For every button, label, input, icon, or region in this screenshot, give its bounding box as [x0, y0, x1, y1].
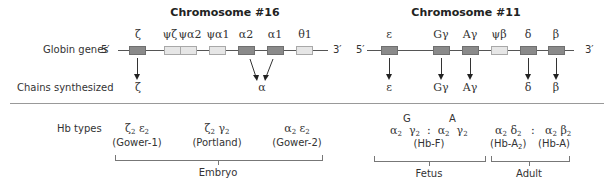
arrow-delta-shaft: [528, 58, 529, 75]
chain-alpha: α: [258, 81, 265, 94]
gene-label-psi-beta: ψβ: [492, 28, 507, 41]
fetus-sup-g: G: [403, 113, 411, 124]
hb-a2-formula: α2 δ2: [495, 124, 522, 138]
gene-box-alpha1: [267, 46, 284, 55]
gene-label-psi-zeta: ψζ: [163, 28, 178, 41]
globin-genes-label: Globin genes: [43, 44, 109, 55]
chromosome-16-title: Chromosome #16: [170, 6, 279, 19]
chr16-five-prime: 5′: [101, 44, 110, 55]
fetus-sup-a: A: [449, 113, 456, 124]
gene-box-psi-zeta: [164, 46, 181, 55]
gene-box-zeta: [129, 46, 146, 55]
adult-label: Adult: [516, 168, 542, 179]
embryo-bracket: [115, 155, 323, 161]
hb-gower1-name: (Gower-1): [112, 137, 161, 148]
adult-separator: :: [531, 124, 535, 137]
arrow-down-icon: [386, 74, 392, 80]
arrow-g-gamma-shaft: [441, 58, 442, 75]
embryo-label: Embryo: [199, 167, 238, 178]
gene-label-alpha2: α2: [239, 28, 253, 41]
gene-box-g-gamma: [433, 46, 450, 55]
chain-beta: β: [553, 81, 559, 94]
arrow-down-icon: [525, 74, 531, 80]
hb-gower2-formula: α2 ε2: [284, 122, 310, 136]
hb-portland-formula: ζ2 γ2: [205, 122, 230, 136]
chains-synthesized-label: Chains synthesized: [17, 82, 114, 93]
fetus-bracket: [374, 156, 486, 162]
arrow-down-icon: [438, 74, 444, 80]
arrow-down-icon: [134, 74, 140, 80]
gene-box-theta1: [296, 46, 313, 55]
fetus-bracket-tick: [429, 162, 430, 166]
section-divider: [10, 103, 604, 104]
gene-label-epsilon: ε: [386, 28, 392, 41]
hb-a-name: (Hb-A): [538, 138, 570, 149]
gene-label-beta: β: [553, 28, 559, 41]
gene-label-delta: δ: [525, 28, 532, 41]
gene-label-g-gamma: Gγ: [433, 28, 448, 41]
arrow-zeta-shaft: [137, 58, 138, 75]
gene-box-beta: [548, 46, 565, 55]
gene-label-zeta: ζ: [135, 28, 141, 41]
adult-bracket: [491, 156, 570, 162]
chain-delta: δ: [525, 81, 532, 94]
arrows-alpha-converge-icon: [240, 58, 280, 82]
gene-box-psi-alpha2: [180, 46, 197, 55]
hb-a2-name: (Hb-A2): [490, 138, 526, 151]
fetus-label: Fetus: [416, 168, 443, 179]
gene-label-psi-alpha2: ψα2: [178, 28, 201, 41]
gene-box-a-gamma: [462, 46, 479, 55]
arrow-down-icon: [467, 74, 473, 80]
hb-f-name: (Hb-F): [413, 138, 444, 149]
hb-gower2-name: (Gower-2): [272, 137, 321, 148]
gene-box-psi-beta: [491, 46, 508, 55]
chain-a-gamma: Aγ: [463, 81, 478, 94]
gene-box-delta: [520, 46, 537, 55]
gene-label-alpha1: α1: [268, 28, 282, 41]
hb-f-formula: α2 γ2 : α2 γ2: [390, 124, 468, 138]
embryo-bracket-tick: [218, 161, 219, 165]
gene-box-psi-alpha1: [209, 46, 226, 55]
arrow-epsilon-shaft: [389, 58, 390, 75]
chain-g-gamma: Gγ: [433, 81, 448, 94]
arrow-down-icon: [553, 74, 559, 80]
gene-box-epsilon: [381, 46, 398, 55]
adult-bracket-tick: [529, 162, 530, 166]
arrow-beta-shaft: [556, 58, 557, 75]
chromosome-11-title: Chromosome #11: [411, 6, 520, 19]
hb-portland-name: (Portland): [192, 137, 241, 148]
chain-zeta: ζ: [135, 81, 141, 94]
arrow-a-gamma-shaft: [470, 58, 471, 75]
gene-label-psi-alpha1: ψα1: [206, 28, 229, 41]
chr11-three-prime: 3′: [585, 44, 594, 55]
chr16-three-prime: 3′: [333, 44, 342, 55]
chr11-five-prime: 5′: [356, 44, 365, 55]
gene-box-alpha2: [238, 46, 255, 55]
hb-gower1-formula: ζ2 ε2: [125, 122, 149, 136]
gene-label-a-gamma: Aγ: [463, 28, 478, 41]
gene-label-theta1: θ1: [298, 28, 312, 41]
hb-a-formula: α2 β2: [545, 124, 571, 138]
chain-epsilon: ε: [386, 81, 392, 94]
hb-types-label: Hb types: [57, 123, 102, 134]
